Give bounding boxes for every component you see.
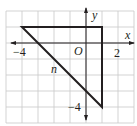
- origin-label: O: [74, 44, 83, 58]
- triangle: [22, 27, 102, 107]
- y-axis-label: y: [91, 8, 98, 22]
- y-axis-up-arrow-icon: [84, 7, 88, 13]
- x-tick-label-2: 2: [114, 46, 120, 60]
- y-tick-label-neg4: −4: [68, 100, 81, 114]
- x-axis-label: x: [124, 28, 131, 42]
- hypotenuse-label-n: n: [51, 62, 57, 76]
- y-axis-down-arrow-icon: [84, 115, 88, 121]
- coordinate-plane: y x O −4 2 −4 n: [0, 0, 137, 126]
- x-tick-label-neg4: −4: [13, 45, 26, 59]
